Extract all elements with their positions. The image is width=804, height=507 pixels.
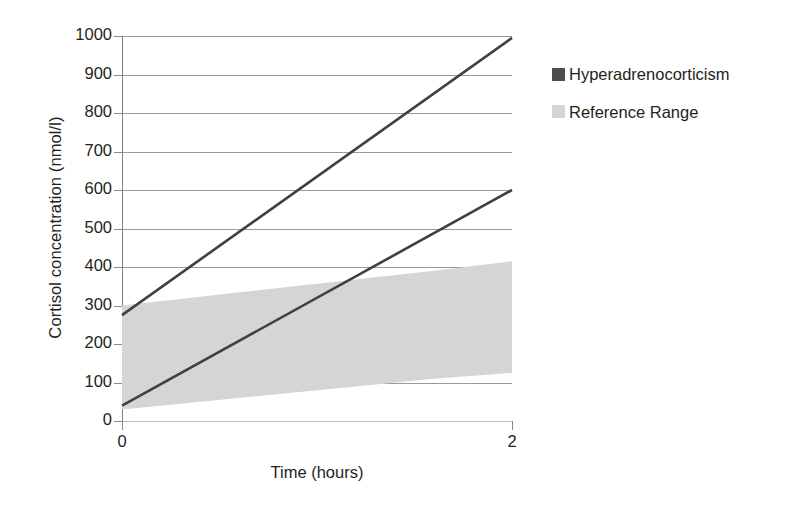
- y-tick-label: 200: [38, 333, 112, 352]
- y-tick-label: 1000: [38, 25, 112, 44]
- legend-label: Reference Range: [569, 104, 698, 121]
- y-axis-tick: [114, 267, 122, 268]
- y-tick-label: 700: [38, 141, 112, 160]
- x-axis-title: Time (hours): [122, 463, 512, 482]
- legend-label: Hyperadrenocorticism: [569, 66, 729, 83]
- y-tick-label: 800: [38, 102, 112, 121]
- legend-item-reference-range: Reference Range: [552, 104, 792, 121]
- legend-item-hyperadrenocorticism: Hyperadrenocorticism: [552, 66, 792, 83]
- y-axis-tick: [114, 75, 122, 76]
- x-axis-tick: [512, 421, 513, 430]
- y-axis-tick: [114, 383, 122, 384]
- y-axis-tick: [114, 36, 122, 37]
- x-tick-label: 2: [492, 432, 532, 451]
- series-layer: [122, 36, 512, 421]
- x-axis-tick: [122, 421, 123, 430]
- y-axis-tick: [114, 306, 122, 307]
- y-tick-label: 900: [38, 64, 112, 83]
- legend-swatch-icon: [552, 68, 565, 81]
- y-axis-tick: [114, 113, 122, 114]
- y-axis-tick: [114, 190, 122, 191]
- plot-area: [122, 36, 512, 421]
- y-tick-label: 500: [38, 218, 112, 237]
- reference-range-band: [122, 261, 512, 409]
- y-tick-label: 600: [38, 179, 112, 198]
- y-tick-label: 0: [38, 410, 112, 429]
- gridline: [122, 421, 512, 422]
- x-tick-label: 0: [102, 432, 142, 451]
- y-axis-tick: [114, 344, 122, 345]
- y-axis-tick: [114, 152, 122, 153]
- cortisol-chart: Cortisol concentration (nmol/l) Time (ho…: [0, 0, 804, 507]
- y-tick-label: 100: [38, 372, 112, 391]
- y-tick-label: 300: [38, 295, 112, 314]
- y-tick-label: 400: [38, 256, 112, 275]
- y-axis-tick: [114, 229, 122, 230]
- legend-swatch-icon: [552, 105, 565, 118]
- chart-legend: Hyperadrenocorticism Reference Range: [552, 66, 792, 141]
- y-axis-tick: [114, 421, 122, 422]
